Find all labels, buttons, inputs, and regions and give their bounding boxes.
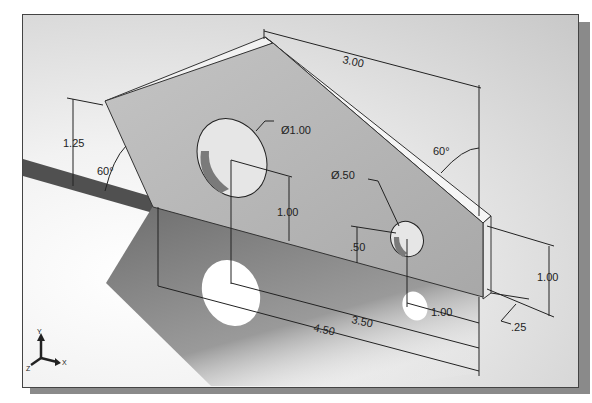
triad-z-label: Z xyxy=(26,365,31,372)
dim-small-hole-offset[interactable]: 1.00 xyxy=(431,306,452,318)
ground-edge xyxy=(23,159,153,213)
dim-big-hole-height[interactable]: 1.00 xyxy=(277,206,298,218)
dim-right-height[interactable]: 1.00 xyxy=(537,271,558,283)
dim-thickness[interactable]: .25 xyxy=(511,321,526,333)
dim-right-angle[interactable]: 60° xyxy=(433,145,450,157)
dim-small-hole-height[interactable]: .50 xyxy=(350,241,365,253)
dim-small-hole-diameter[interactable]: Ø.50 xyxy=(331,169,355,181)
triad-y-label: Y xyxy=(37,328,42,335)
dim-top-width[interactable]: 3.00 xyxy=(342,53,365,69)
part-drawing: 3.00 1.25 60° 60° Ø1.00 1.00 Ø.50 .50 1.… xyxy=(23,15,578,387)
graphics-viewport[interactable]: 3.00 1.25 60° 60° Ø1.00 1.00 Ø.50 .50 1.… xyxy=(22,14,579,388)
right-edge-face xyxy=(483,216,491,299)
triad-x-label: X xyxy=(62,359,67,366)
x-axis-icon xyxy=(41,358,57,362)
dim-left-height[interactable]: 1.25 xyxy=(63,137,84,149)
dim-left-angle[interactable]: 60° xyxy=(97,165,114,177)
axis-triad xyxy=(31,333,61,366)
dim-big-hole-diameter[interactable]: Ø1.00 xyxy=(281,124,311,136)
z-axis-icon xyxy=(31,358,41,365)
